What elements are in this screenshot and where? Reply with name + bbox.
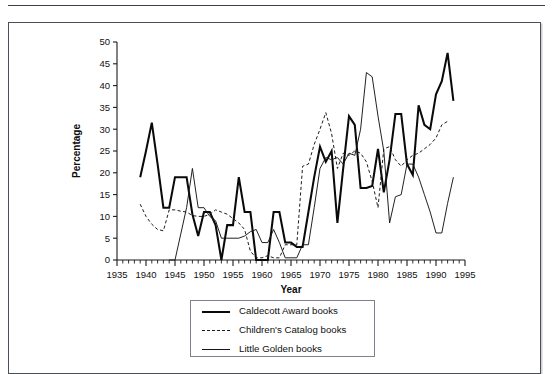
y-tick-label: 45 — [99, 58, 110, 69]
y-tick-label: 5 — [105, 233, 110, 244]
y-tick-label: 40 — [99, 80, 110, 91]
x-tick-label: 1940 — [135, 269, 156, 280]
x-tick-label: 1980 — [367, 269, 388, 280]
y-tick-label: 20 — [99, 167, 110, 178]
x-axis-title: Year — [280, 284, 301, 295]
y-tick-label: 35 — [99, 102, 110, 113]
legend-line-swatch-little-golden — [200, 344, 232, 354]
x-tick-label: 1935 — [106, 269, 127, 280]
x-tick-label: 1970 — [309, 269, 330, 280]
x-tick-label: 1995 — [454, 269, 475, 280]
x-tick-label: 1960 — [251, 269, 272, 280]
x-tick-label: 1950 — [193, 269, 214, 280]
y-tick-label: 30 — [99, 124, 110, 135]
legend-item-little-golden: Little Golden books — [191, 339, 374, 358]
series-line-childrens-catalog-books — [140, 113, 447, 258]
y-tick-label: 10 — [99, 211, 110, 222]
series-line-caldecott-award-books — [140, 53, 453, 260]
legend-label-caldecott: Caldecott Award books — [232, 305, 338, 316]
x-tick-label: 1990 — [425, 269, 446, 280]
legend-label-little-golden: Little Golden books — [232, 343, 322, 354]
x-tick-label: 1965 — [280, 269, 301, 280]
y-tick-label: 0 — [105, 254, 110, 265]
legend-item-childrens-catalog: Children's Catalog books — [191, 320, 374, 339]
series-line-little-golden-books — [169, 73, 453, 260]
x-tick-label: 1955 — [222, 269, 243, 280]
chart-legend: Caldecott Award books Children's Catalog… — [190, 300, 375, 357]
legend-line-swatch-caldecott — [200, 306, 232, 316]
x-tick-label: 1975 — [338, 269, 359, 280]
y-tick-label: 15 — [99, 189, 110, 200]
y-tick-label: 50 — [99, 36, 110, 47]
x-tick-label: 1945 — [164, 269, 185, 280]
legend-label-childrens-catalog: Children's Catalog books — [232, 324, 346, 335]
y-tick-label: 25 — [99, 145, 110, 156]
legend-item-caldecott: Caldecott Award books — [191, 301, 374, 320]
x-tick-label: 1985 — [396, 269, 417, 280]
legend-line-swatch-childrens-catalog — [200, 325, 232, 335]
y-axis-title: Percentage — [71, 124, 82, 178]
